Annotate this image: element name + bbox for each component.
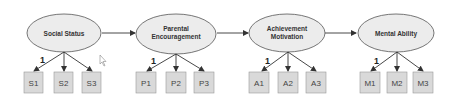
latent-label-line1: Parental bbox=[163, 25, 189, 32]
loading-label: 1 bbox=[40, 55, 45, 65]
indicator-m3: M3 bbox=[417, 79, 429, 88]
latent-label: Social Status bbox=[44, 30, 85, 37]
latent-parental-encouragement: Parental Encouragement 1 P1 P2 P3 bbox=[136, 14, 216, 93]
latent-label: Mental Ability bbox=[375, 30, 417, 38]
indicator-a1: A1 bbox=[254, 79, 264, 88]
latent-label-line1: Achievement bbox=[267, 25, 308, 32]
latent-mental-ability: Mental Ability 1 M1 M2 M3 bbox=[358, 14, 434, 93]
indicator-m2: M2 bbox=[391, 79, 403, 88]
latent-label-line2: Motivation bbox=[271, 33, 304, 40]
indicator-p2: P2 bbox=[171, 79, 181, 88]
indicator-p1: P1 bbox=[141, 79, 151, 88]
loading-label: 1 bbox=[374, 56, 379, 66]
indicator-s1: S1 bbox=[29, 79, 39, 88]
sem-diagram: Social Status 1 S1 S2 S3 Parental Encour… bbox=[0, 0, 458, 100]
indicator-s2: S2 bbox=[59, 79, 69, 88]
indicator-m1: M1 bbox=[364, 79, 376, 88]
indicator-p3: P3 bbox=[199, 79, 209, 88]
indicator-a2: A2 bbox=[283, 79, 293, 88]
latent-label-line2: Encouragement bbox=[151, 33, 201, 41]
indicator-a3: A3 bbox=[311, 79, 321, 88]
indicator-s3: S3 bbox=[87, 79, 97, 88]
loading-label: 1 bbox=[265, 56, 270, 66]
latent-social-status: Social Status 1 S1 S2 S3 bbox=[24, 14, 101, 93]
latent-achievement-motivation: Achievement Motivation 1 A1 A2 A3 bbox=[249, 14, 326, 93]
loading-label: 1 bbox=[151, 56, 156, 66]
mouse-cursor-icon bbox=[100, 55, 106, 66]
